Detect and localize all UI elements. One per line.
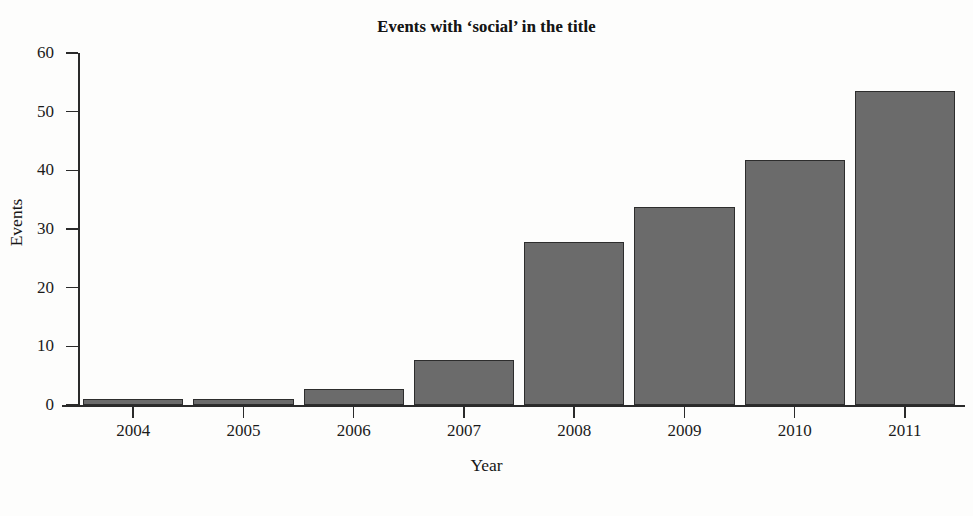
y-axis-tick-label: 0 bbox=[0, 396, 54, 413]
bar bbox=[414, 360, 514, 405]
scan-artifact bbox=[0, 500, 973, 516]
x-axis-tick bbox=[794, 406, 796, 418]
bar bbox=[634, 207, 734, 405]
x-axis-tick bbox=[353, 406, 355, 418]
y-axis-tick-label: 40 bbox=[0, 161, 54, 178]
x-axis-tick-label: 2009 bbox=[629, 421, 739, 441]
x-axis-tick bbox=[243, 406, 245, 418]
bar bbox=[855, 91, 955, 405]
chart-figure: Events with ‘social’ in the title 010203… bbox=[0, 0, 973, 516]
bar bbox=[83, 399, 183, 405]
x-axis-tick bbox=[463, 406, 465, 418]
y-axis-tick-label: 50 bbox=[0, 103, 54, 120]
y-axis-tick bbox=[66, 111, 78, 113]
x-axis-tick-label: 2005 bbox=[188, 421, 298, 441]
x-axis-tick-label: 2006 bbox=[299, 421, 409, 441]
y-axis-tick bbox=[66, 287, 78, 289]
x-axis-tick-label: 2004 bbox=[78, 421, 188, 441]
x-axis-tick-label: 2011 bbox=[850, 421, 960, 441]
bar bbox=[304, 389, 404, 405]
x-axis-title: Year bbox=[0, 455, 973, 476]
y-axis-tick bbox=[66, 228, 78, 230]
y-axis-tick bbox=[66, 346, 78, 348]
chart-title: Events with ‘social’ in the title bbox=[0, 17, 973, 37]
x-axis-tick bbox=[132, 406, 134, 418]
bar bbox=[193, 399, 293, 405]
plot-area bbox=[78, 53, 960, 405]
x-axis-tick bbox=[684, 406, 686, 418]
bar bbox=[745, 160, 845, 405]
y-axis-tick-label: 60 bbox=[0, 44, 54, 61]
x-axis-tick bbox=[573, 406, 575, 418]
x-axis-tick-label: 2010 bbox=[740, 421, 850, 441]
bar bbox=[524, 242, 624, 405]
y-axis-title: Events bbox=[6, 183, 27, 263]
x-axis-tick-label: 2008 bbox=[519, 421, 629, 441]
y-axis-tick bbox=[66, 404, 78, 406]
y-axis-tick bbox=[66, 170, 78, 172]
y-axis-tick-label: 10 bbox=[0, 337, 54, 354]
x-axis-tick-label: 2007 bbox=[409, 421, 519, 441]
y-axis-tick-label: 20 bbox=[0, 279, 54, 296]
y-axis-tick bbox=[66, 52, 78, 54]
x-axis-line bbox=[62, 405, 965, 407]
x-axis-tick bbox=[904, 406, 906, 418]
